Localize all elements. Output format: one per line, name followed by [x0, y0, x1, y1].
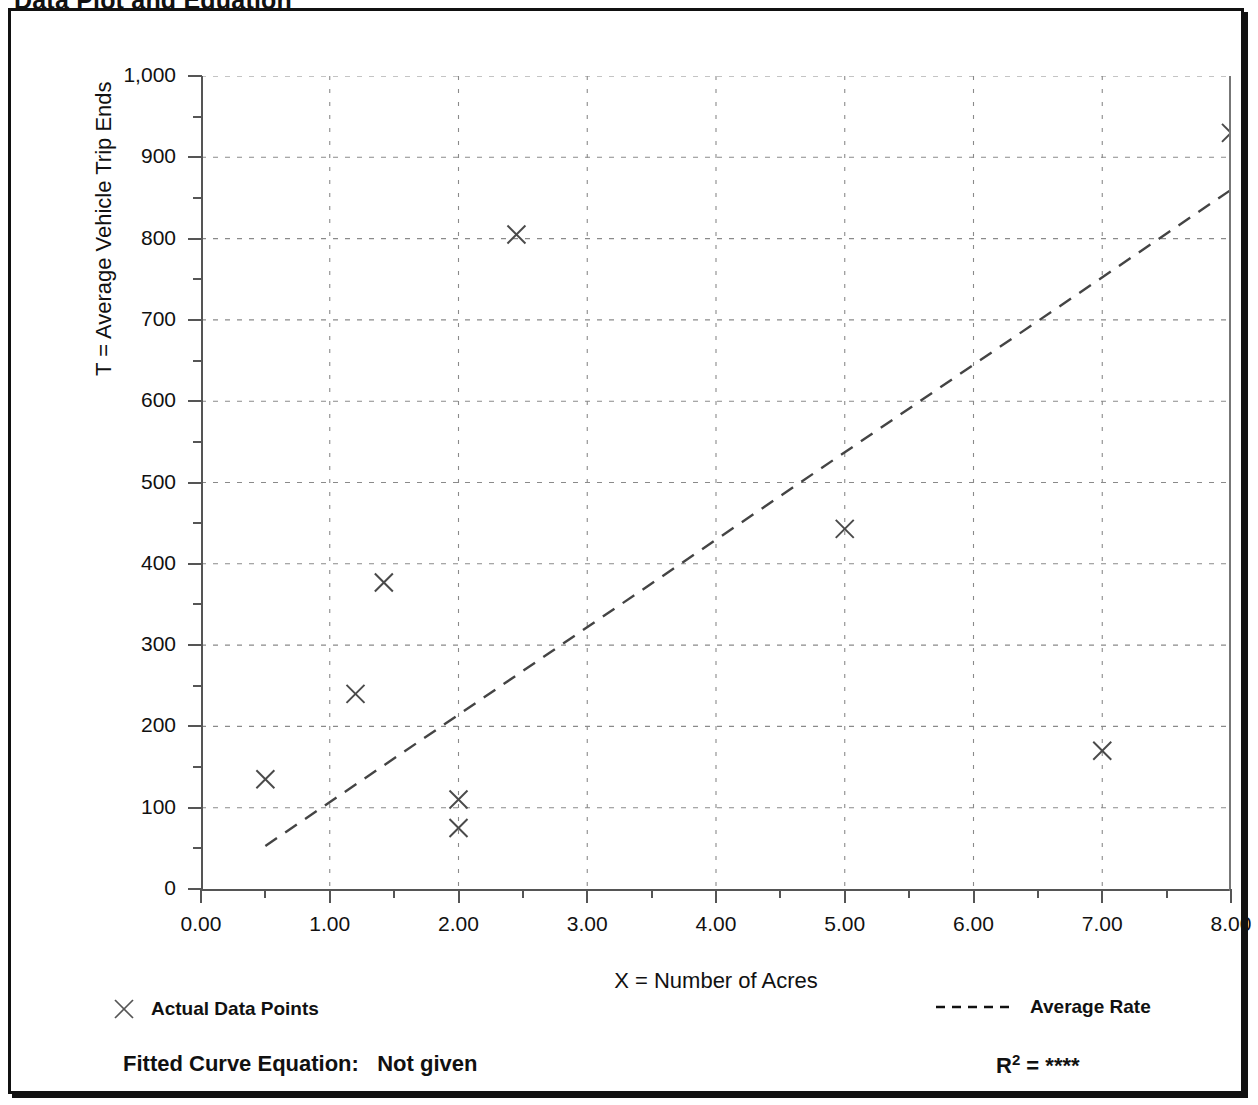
y-axis-major-tick	[188, 807, 202, 809]
r-squared-equals: =	[1026, 1053, 1039, 1078]
x-axis-minor-tick	[651, 889, 653, 898]
x-axis-minor-tick	[779, 889, 781, 898]
y-axis-minor-tick	[193, 441, 202, 443]
y-axis-minor-tick	[193, 360, 202, 362]
y-axis-tick-label: 500	[96, 470, 176, 494]
x-axis-major-tick	[200, 889, 202, 903]
x-axis-tick-label: 7.00	[1057, 912, 1147, 936]
x-marker-icon	[111, 996, 137, 1022]
x-axis-major-tick	[844, 889, 846, 903]
x-axis-major-tick	[329, 889, 331, 903]
x-axis-tick-label: 0.00	[156, 912, 246, 936]
y-axis-major-tick	[188, 482, 202, 484]
plot-canvas	[201, 76, 1231, 891]
fitted-curve-equation-label: Fitted Curve Equation:	[123, 1051, 359, 1076]
y-axis-tick-label: 400	[96, 551, 176, 575]
x-axis-tick-label: 8.00	[1186, 912, 1258, 936]
y-axis-major-tick	[188, 238, 202, 240]
data-point-marker	[1093, 742, 1111, 760]
x-axis-title: X = Number of Acres	[201, 968, 1231, 994]
x-axis-minor-tick	[522, 889, 524, 898]
x-axis-tick-label: 1.00	[285, 912, 375, 936]
y-axis-minor-tick	[193, 766, 202, 768]
y-axis-minor-tick	[193, 278, 202, 280]
data-point-marker	[347, 685, 365, 703]
x-axis-major-tick	[586, 889, 588, 903]
y-axis-major-tick	[188, 319, 202, 321]
legend: Actual Data Points Average Rate	[11, 996, 1247, 1036]
legend-item-actual-data-points: Actual Data Points	[111, 996, 319, 1022]
data-point-marker	[256, 770, 274, 788]
y-axis-major-tick	[188, 75, 202, 77]
y-axis-tick-label: 200	[96, 713, 176, 737]
x-axis-tick-label: 3.00	[542, 912, 632, 936]
x-axis-major-tick	[715, 889, 717, 903]
average-rate-line	[265, 190, 1231, 846]
y-axis-minor-tick	[193, 603, 202, 605]
x-axis-minor-tick	[908, 889, 910, 898]
data-point-marker	[836, 520, 854, 538]
r-squared-value: R2 = ****	[996, 1051, 1080, 1079]
plot-right-border	[1229, 76, 1231, 891]
fitted-curve-equation-value: Not given	[377, 1051, 477, 1076]
x-axis-major-tick	[973, 889, 975, 903]
legend-item-average-rate: Average Rate	[936, 996, 1151, 1018]
y-axis-minor-tick	[193, 197, 202, 199]
data-point-markers	[256, 124, 1231, 837]
legend-label-actual-data-points: Actual Data Points	[151, 998, 319, 1020]
r-squared-exponent: 2	[1012, 1051, 1020, 1068]
y-axis-major-tick	[188, 725, 202, 727]
y-axis-tick-label: 600	[96, 388, 176, 412]
r-squared-stars: ****	[1045, 1053, 1079, 1078]
y-axis-minor-tick	[193, 847, 202, 849]
x-axis-tick-label: 4.00	[671, 912, 761, 936]
x-axis-minor-tick	[393, 889, 395, 898]
chart-footer: Fitted Curve Equation: Not given R2 = **…	[11, 1051, 1247, 1095]
y-axis-tick-label: 300	[96, 632, 176, 656]
y-axis-minor-tick	[193, 685, 202, 687]
y-axis-minor-tick	[193, 116, 202, 118]
y-axis-minor-tick	[193, 522, 202, 524]
plot-area: 01002003004005006007008009001,000 0.001.…	[201, 76, 1231, 891]
dashed-line-icon	[936, 1000, 1014, 1014]
x-axis-major-tick	[458, 889, 460, 903]
y-axis-major-tick	[188, 156, 202, 158]
fitted-curve-equation: Fitted Curve Equation: Not given	[123, 1051, 477, 1077]
chart-frame: 01002003004005006007008009001,000 0.001.…	[8, 8, 1244, 1094]
x-axis-tick-label: 6.00	[929, 912, 1019, 936]
r-squared-label: R	[996, 1053, 1012, 1078]
y-axis-tick-label: 100	[96, 795, 176, 819]
x-axis-minor-tick	[1166, 889, 1168, 898]
y-axis-tick-label: 0	[96, 876, 176, 900]
x-axis-tick-label: 2.00	[414, 912, 504, 936]
x-axis-minor-tick	[1037, 889, 1039, 898]
data-point-marker	[507, 226, 525, 244]
data-point-marker	[450, 819, 468, 837]
x-axis-minor-tick	[264, 889, 266, 898]
y-axis-major-tick	[188, 644, 202, 646]
legend-label-average-rate: Average Rate	[1030, 996, 1151, 1018]
x-axis-major-tick	[1101, 889, 1103, 903]
y-axis-major-tick	[188, 400, 202, 402]
y-axis-major-tick	[188, 563, 202, 565]
x-axis-major-tick	[1230, 889, 1232, 903]
x-axis-tick-label: 5.00	[800, 912, 890, 936]
y-axis-title: T = Average Vehicle Trip Ends	[91, 0, 117, 376]
data-point-marker	[375, 573, 393, 591]
